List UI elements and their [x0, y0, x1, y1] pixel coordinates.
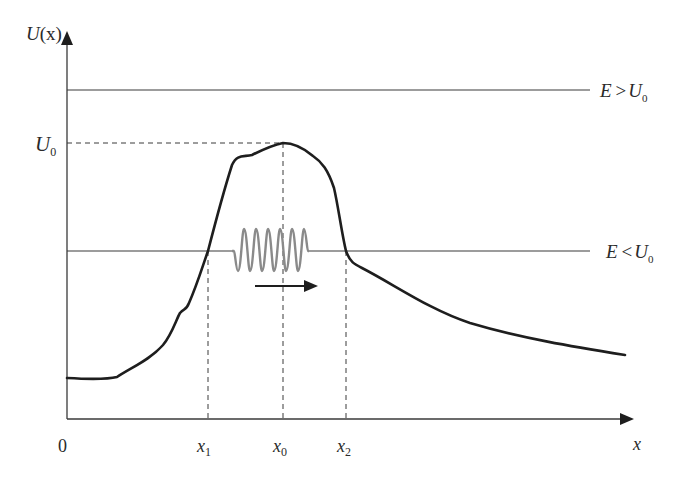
x-axis-arrow-icon	[620, 413, 634, 425]
x0-label: x0	[272, 436, 287, 459]
y-axis-arrow-icon	[61, 31, 73, 45]
x2-label: x2	[336, 436, 351, 459]
origin-label: 0	[58, 436, 67, 456]
wave-packet	[232, 229, 309, 271]
x1-label: x1	[196, 436, 211, 459]
direction-arrow-icon	[304, 280, 318, 292]
low-energy-label: E<U0	[605, 241, 654, 265]
y-axis-label: U(x)	[26, 23, 62, 45]
x-axis-label: x	[632, 434, 641, 454]
u0-label: U0	[35, 132, 56, 159]
potential-barrier-diagram: U(x) U0 E>U0 E<U0 0 x1 x0 x2 x	[0, 0, 682, 477]
high-energy-label: E>U0	[599, 80, 648, 104]
